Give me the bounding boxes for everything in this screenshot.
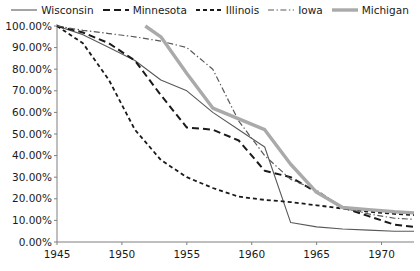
x-axis-tick-label: 1955 — [162, 249, 212, 260]
chart-legend: WisconsinMinnesotaIllinoisIowaMichigan — [0, 0, 420, 20]
series-line-iowa — [57, 26, 414, 219]
y-axis-tick-label: 50.00% — [12, 129, 52, 140]
solid-line-swatch — [11, 5, 37, 15]
series-line-michigan — [145, 26, 414, 213]
y-axis-tick-label: 80.00% — [12, 64, 52, 75]
legend-label: Iowa — [298, 5, 323, 16]
legend-item-iowa[interactable]: Iowa — [268, 5, 323, 16]
series-line-illinois — [57, 26, 414, 215]
chart-root: WisconsinMinnesotaIllinoisIowaMichigan 0… — [0, 0, 420, 271]
x-axis-tick-label: 1965 — [292, 249, 342, 260]
short-dashed-line-swatch — [196, 5, 222, 15]
x-axis-tick-label: 1945 — [32, 249, 82, 260]
series-line-wisconsin — [57, 26, 414, 231]
y-axis-tick-label: 20.00% — [12, 193, 52, 204]
y-axis-tick-label: 40.00% — [12, 150, 52, 161]
y-axis-tick-label: 90.00% — [12, 42, 52, 53]
plot-area: 0.00%10.00%20.00%30.00%40.00%50.00%60.00… — [0, 18, 420, 271]
x-axis-tick-label: 1960 — [227, 249, 277, 260]
legend-label: Michigan — [362, 5, 409, 16]
legend-item-minnesota[interactable]: Minnesota — [103, 5, 187, 16]
y-axis-tick-label: 60.00% — [12, 107, 52, 118]
y-axis-tick-label: 100.00% — [5, 21, 52, 32]
y-axis-tick-label: 10.00% — [12, 215, 52, 226]
legend-item-wisconsin[interactable]: Wisconsin — [11, 5, 93, 16]
legend-label: Illinois — [226, 5, 259, 16]
y-axis-tick-label: 30.00% — [12, 172, 52, 183]
x-axis-tick-label: 1950 — [97, 249, 147, 260]
y-axis-tick-label: 70.00% — [12, 85, 52, 96]
y-axis-tick-label: 0.00% — [19, 237, 52, 248]
thick-solid-line-swatch — [332, 5, 358, 15]
legend-label: Minnesota — [133, 5, 187, 16]
series-line-minnesota — [57, 26, 414, 227]
dash-dot-line-swatch — [268, 5, 294, 15]
plot-svg — [0, 18, 420, 271]
legend-item-michigan[interactable]: Michigan — [332, 5, 409, 16]
legend-item-illinois[interactable]: Illinois — [196, 5, 259, 16]
x-axis-tick-label: 1970 — [357, 249, 407, 260]
legend-label: Wisconsin — [41, 5, 93, 16]
dashed-line-swatch — [103, 5, 129, 15]
